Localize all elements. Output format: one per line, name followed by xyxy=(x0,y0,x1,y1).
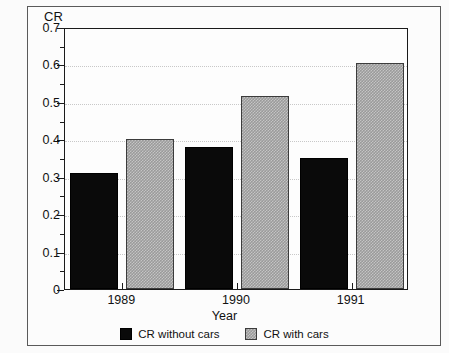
y-tick-mark-minor xyxy=(60,271,64,272)
y-tick-mark-minor xyxy=(60,122,64,123)
legend-label: CR without cars xyxy=(138,328,219,340)
y-axis-tick-label: 0.3 xyxy=(26,171,60,184)
bar xyxy=(300,158,348,289)
x-axis-tick-label: 1990 xyxy=(222,293,250,307)
y-tick-mark-minor xyxy=(60,196,64,197)
y-axis-tick-label: 0.2 xyxy=(26,209,60,222)
y-tick-mark-minor xyxy=(60,159,64,160)
y-tick-mark-minor xyxy=(60,47,64,48)
x-tick-mark xyxy=(237,283,238,289)
bar xyxy=(70,173,118,289)
chart-legend: CR without carsCR with cars xyxy=(0,328,449,340)
y-axis-tick-label: 0 xyxy=(26,284,60,297)
bar xyxy=(126,139,174,289)
y-axis-tick-label: 0.5 xyxy=(26,97,60,110)
bar xyxy=(241,96,289,289)
legend-label: CR with cars xyxy=(263,328,328,340)
y-axis-tick-labels: 00.10.20.30.40.50.60.7 xyxy=(24,28,60,290)
y-axis-tick-label: 0.7 xyxy=(26,22,60,35)
legend-swatch xyxy=(120,328,132,340)
y-axis-tick-label: 0.4 xyxy=(26,134,60,147)
bar xyxy=(356,63,404,289)
x-tick-mark xyxy=(122,283,123,289)
legend-entry: CR without cars xyxy=(120,328,219,340)
x-axis-tick-label: 1989 xyxy=(107,293,135,307)
x-tick-mark xyxy=(352,283,353,289)
plot-area xyxy=(64,28,408,290)
y-tick-mark-minor xyxy=(60,234,64,235)
y-tick-mark-minor xyxy=(60,84,64,85)
legend-entry: CR with cars xyxy=(245,328,328,340)
x-axis-title: Year xyxy=(0,309,449,323)
bar xyxy=(185,147,233,289)
legend-swatch xyxy=(245,328,257,340)
y-axis-tick-label: 0.1 xyxy=(26,246,60,259)
chart-figure: CR 00.10.20.30.40.50.60.7 198919901991 Y… xyxy=(0,0,449,353)
y-axis-tick-label: 0.6 xyxy=(26,59,60,72)
x-axis-tick-label: 1991 xyxy=(337,293,365,307)
